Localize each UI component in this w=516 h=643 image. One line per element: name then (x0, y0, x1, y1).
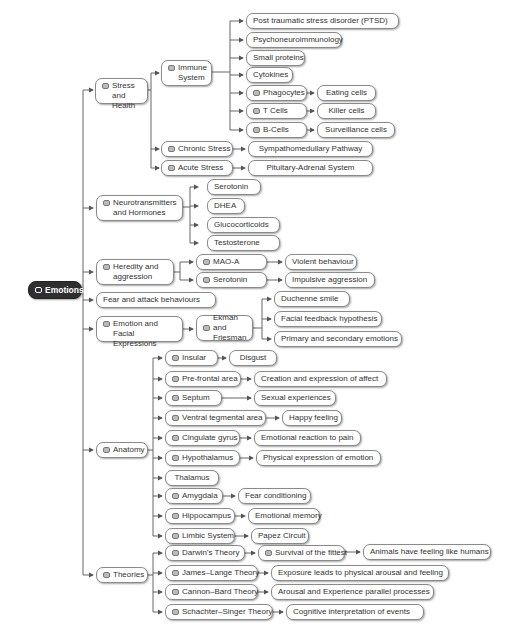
node-exposure-leads-to-physical-arousal[interactable]: Exposure leads to physical arousal and f… (271, 565, 449, 581)
node-sympathomedullary-pathway[interactable]: Sympathomedullary Pathway (248, 141, 373, 157)
node-testosterone[interactable]: Testosterone (207, 235, 280, 251)
node-violent-behaviour[interactable]: Violent behaviour (285, 254, 357, 270)
node-immune-system[interactable]: Immune System (161, 60, 212, 86)
node-killer-cells[interactable]: Killer cells (317, 103, 376, 119)
node-fear-and-attack-behaviours[interactable]: Fear and attack behaviours (96, 292, 216, 308)
node-serotonin-heredity[interactable]: Serotonin (196, 272, 267, 288)
node-theories[interactable]: Theories (96, 567, 148, 583)
node-impulsive-aggression[interactable]: Impulsive aggression (285, 272, 375, 288)
collapse-icon[interactable] (172, 609, 179, 615)
node-animals-have-feeling-like-humans[interactable]: Animals have feeling like humans (363, 544, 491, 560)
collapse-icon[interactable] (168, 65, 175, 71)
node-label: Cognitive interpretation of events (293, 607, 410, 617)
collapse-icon[interactable] (168, 146, 175, 152)
node-cannon-bard-theory[interactable]: Cannon–Bard Theory (165, 584, 258, 600)
collapse-icon[interactable] (253, 90, 260, 96)
node-label: Exposure leads to physical arousal and f… (278, 568, 443, 578)
node-stress-and-health[interactable]: Stress and Health (95, 78, 148, 104)
node-papez-circuit[interactable]: Papez Circuit (251, 528, 309, 544)
node-serotonin[interactable]: Serotonin (207, 179, 261, 195)
node-anatomy[interactable]: Anatomy (96, 442, 148, 458)
node-cognitive-interpretation-of-events[interactable]: Cognitive interpretation of events (286, 604, 424, 620)
collapse-icon[interactable] (103, 200, 110, 206)
node-disgust[interactable]: Disgust (229, 350, 277, 366)
node-hypothalamus[interactable]: Hypothalamus (165, 450, 240, 466)
node-amygdala[interactable]: Amygdala (165, 488, 223, 504)
node-limbic-system[interactable]: Limbic System (165, 528, 235, 544)
collapse-icon[interactable] (102, 83, 109, 89)
node-glucocorticoids[interactable]: Glucocorticoids (207, 217, 280, 233)
collapse-icon[interactable] (103, 572, 110, 578)
collapse-icon[interactable] (172, 533, 179, 539)
node-emotional-reaction-to-pain[interactable]: Emotional reaction to pain (254, 430, 361, 446)
node-neurotransmitters-and-hormones[interactable]: Neurotransmitters and Hormones (96, 195, 183, 221)
node-b-cells[interactable]: B-Cells (246, 122, 307, 138)
collapse-icon[interactable] (103, 447, 110, 453)
collapse-icon[interactable] (168, 165, 175, 171)
node-schachter-singer-theory[interactable]: Schachter–Singer Theory (165, 604, 273, 620)
node-arousal-and-experience-parallel[interactable]: Arousal and Experience parallel processe… (271, 584, 434, 600)
collapse-icon[interactable] (172, 415, 179, 421)
collapse-icon[interactable] (103, 264, 110, 270)
node-eating-cells[interactable]: Eating cells (317, 85, 376, 101)
node-phagocytes[interactable]: Phagocytes (246, 85, 307, 101)
collapse-icon[interactable] (253, 108, 260, 114)
node-james-lange-theory[interactable]: James–Lange Theory (165, 565, 258, 581)
node-sexual-experiences[interactable]: Sexual experiences (254, 390, 336, 406)
node-hippocampus[interactable]: Hippocampus (165, 508, 235, 524)
collapse-icon[interactable] (265, 550, 272, 556)
collapse-icon[interactable] (172, 376, 179, 382)
node-ekman-and-friesman[interactable]: Ekman and Friesman (196, 315, 253, 341)
node-physical-expression-of-emotion[interactable]: Physical expression of emotion (256, 450, 381, 466)
collapse-icon[interactable] (253, 127, 260, 133)
node-creation-and-expression-of-affect[interactable]: Creation and expression of affect (254, 371, 387, 387)
node-fear-conditioning[interactable]: Fear conditioning (238, 488, 311, 504)
node-mao-a[interactable]: MAO-A (196, 254, 267, 270)
node-t-cells[interactable]: T Cells (246, 103, 307, 119)
root-node-emotions[interactable]: Emotions (28, 281, 82, 299)
collapse-icon[interactable] (35, 287, 42, 293)
node-duchenne-smile[interactable]: Duchenne smile (274, 291, 350, 307)
node-emotional-memory[interactable]: Emotional memory (248, 508, 320, 524)
node-dhea[interactable]: DHEA (207, 198, 245, 214)
node-pre-frontal-area[interactable]: Pre-frontal area (165, 371, 241, 387)
node-chronic-stress[interactable]: Chronic Stress (161, 141, 233, 157)
collapse-icon[interactable] (172, 589, 179, 595)
node-surveillance-cells[interactable]: Surveillance cells (317, 122, 395, 138)
node-acute-stress[interactable]: Acute Stress (161, 160, 233, 176)
node-happy-feeling[interactable]: Happy feeling (282, 410, 342, 426)
node-thalamus[interactable]: Thalamus (165, 470, 219, 486)
collapse-icon[interactable] (203, 277, 210, 283)
node-septum[interactable]: Septum (165, 390, 222, 406)
collapse-icon[interactable] (172, 455, 179, 461)
node-psychoneuroimmunology[interactable]: Psychoneuroimmunology (246, 32, 342, 48)
collapse-icon[interactable] (172, 435, 179, 441)
node-pituitary-adrenal-system[interactable]: Pituitary-Adrenal System (248, 160, 373, 176)
collapse-icon[interactable] (203, 259, 210, 265)
node-label: Physical expression of emotion (263, 453, 373, 463)
node-label: Violent behaviour (292, 257, 354, 267)
collapse-icon[interactable] (172, 513, 179, 519)
node-darwins-theory[interactable]: Darwin's Theory (165, 545, 245, 561)
node-small-proteins[interactable]: Small proteins (246, 50, 305, 66)
collapse-icon[interactable] (103, 321, 110, 327)
collapse-icon[interactable] (172, 550, 179, 556)
collapse-icon[interactable] (172, 570, 179, 576)
node-label: Surveillance cells (325, 125, 387, 135)
node-survival-of-the-fittest[interactable]: Survival of the fittest (258, 545, 345, 561)
collapse-icon[interactable] (203, 325, 210, 331)
node-primary-and-secondary-emotions[interactable]: Primary and secondary emotions (274, 331, 402, 347)
collapse-icon[interactable] (172, 395, 179, 401)
node-cingulate-gyrus[interactable]: Cingulate gyrus (165, 430, 240, 446)
node-cytokines[interactable]: Cytokines (246, 67, 293, 83)
node-facial-feedback-hypothesis[interactable]: Facial feedback hypothesis (274, 311, 382, 327)
collapse-icon[interactable] (172, 355, 179, 361)
node-label: Post traumatic stress disorder (PTSD) (253, 16, 388, 26)
node-emotion-and-facial-expressions[interactable]: Emotion and Facial Expressions (96, 316, 183, 342)
node-ptsd[interactable]: Post traumatic stress disorder (PTSD) (246, 13, 399, 29)
node-insular[interactable]: Insular (165, 350, 218, 366)
collapse-icon[interactable] (172, 493, 179, 499)
node-heredity-and-aggression[interactable]: Heredity and aggression (96, 259, 174, 285)
node-ventral-tegmental-area[interactable]: Ventral tegmental area (165, 410, 266, 426)
node-label: Pre-frontal area (182, 374, 238, 384)
